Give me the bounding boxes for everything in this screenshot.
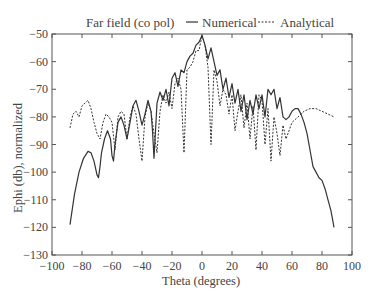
x-axis-ticks: −100−80−60−40−20020406080100 [40,34,361,273]
legend-numerical-label: Numerical [202,15,257,30]
y-tick-label: −50 [29,27,48,41]
y-tick-label: −80 [29,110,48,124]
y-axis-label: Ephi (db), normalized [11,102,25,213]
y-tick-label: −110 [24,193,48,207]
y-axis-ticks: −50−60−70−80−90−100−110−120−130 [23,27,352,262]
x-tick-label: 60 [286,259,298,273]
x-tick-label: 100 [343,259,361,273]
y-tick-label: −60 [29,55,48,69]
legend: Numerical Analytical [186,15,335,30]
y-tick-label: −120 [23,220,48,234]
y-tick-label: −70 [29,82,48,96]
x-axis-label: Theta (degrees) [162,274,240,288]
x-tick-label: 20 [226,259,238,273]
x-tick-label: −40 [133,259,152,273]
x-tick-label: 40 [256,259,268,273]
x-tick-label: −80 [73,259,92,273]
x-tick-label: −60 [103,259,122,273]
plot-area [52,34,352,255]
legend-analytical-label: Analytical [280,15,335,30]
series-analytical [70,35,334,161]
series-group [70,35,334,227]
x-tick-label: −20 [163,259,182,273]
y-tick-label: −90 [29,138,48,152]
chart-title: Far field (co pol) [86,15,174,30]
far-field-chart: Far field (co pol) Numerical Analytical … [0,0,373,304]
x-tick-label: 0 [199,259,205,273]
y-tick-label: −100 [23,165,48,179]
x-tick-label: 80 [316,259,328,273]
series-numerical [70,35,334,227]
x-tick-label: −100 [40,259,65,273]
